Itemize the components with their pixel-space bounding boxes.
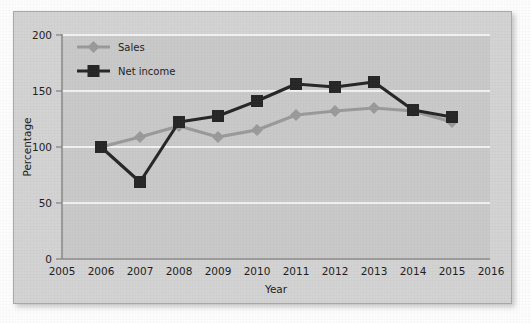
y-tick-label-100: 100 bbox=[32, 141, 52, 153]
x-axis: 2005 2006 2007 2008 2009 2010 2011 2012 … bbox=[49, 259, 505, 277]
x-tick-label-2009: 2009 bbox=[205, 265, 232, 277]
net-income-marker-2011 bbox=[290, 78, 302, 90]
net-income-marker-2015 bbox=[446, 111, 458, 123]
net-income-marker-2006 bbox=[95, 141, 107, 153]
line-chart: 200 150 100 50 0 2005 2006 2007 2008 200… bbox=[0, 0, 531, 323]
legend-label-net-income: Net income bbox=[118, 66, 175, 77]
y-axis-title: Percentage bbox=[21, 117, 33, 176]
x-tick-label-2006: 2006 bbox=[88, 265, 115, 277]
x-tick-label-2010: 2010 bbox=[244, 265, 271, 277]
net-income-marker-2007 bbox=[134, 176, 146, 188]
x-axis-title: Year bbox=[264, 283, 288, 295]
x-tick-label-2013: 2013 bbox=[361, 265, 388, 277]
legend-net-income-square-icon bbox=[88, 65, 100, 77]
x-tick-label-2005: 2005 bbox=[49, 265, 76, 277]
y-axis: 200 150 100 50 0 bbox=[32, 29, 62, 265]
x-tick-label-2015: 2015 bbox=[439, 265, 466, 277]
net-income-marker-2009 bbox=[212, 110, 224, 122]
x-tick-label-2008: 2008 bbox=[166, 265, 193, 277]
net-income-marker-2014 bbox=[407, 104, 419, 116]
x-tick-label-2016: 2016 bbox=[478, 265, 505, 277]
y-tick-label-150: 150 bbox=[32, 85, 52, 97]
y-tick-label-0: 0 bbox=[45, 253, 52, 265]
y-tick-label-200: 200 bbox=[32, 29, 52, 41]
y-tick-label-50: 50 bbox=[39, 197, 52, 209]
x-tick-label-2011: 2011 bbox=[283, 265, 310, 277]
x-tick-label-2014: 2014 bbox=[400, 265, 427, 277]
net-income-marker-2012 bbox=[329, 81, 341, 93]
x-tick-label-2007: 2007 bbox=[127, 265, 154, 277]
x-tick-label-2012: 2012 bbox=[322, 265, 349, 277]
legend-item-net-income[interactable]: Net income bbox=[77, 65, 175, 77]
net-income-marker-2008 bbox=[173, 116, 185, 128]
net-income-marker-2010 bbox=[251, 95, 263, 107]
net-income-marker-2013 bbox=[368, 76, 380, 88]
legend-label-sales: Sales bbox=[118, 42, 145, 53]
chart-figure: 200 150 100 50 0 2005 2006 2007 2008 200… bbox=[0, 0, 531, 323]
